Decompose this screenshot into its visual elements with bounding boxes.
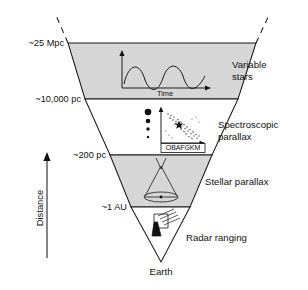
- distance-axis: Distance: [34, 152, 51, 258]
- hr-xaxis-label: OBAFGKM: [166, 144, 201, 151]
- right-edge-dashed-extension: [256, 13, 270, 43]
- scale-label-10000-pc: ~10,000 pc: [35, 94, 81, 104]
- distance-axis-arrowhead: [43, 152, 50, 161]
- scale-label-25-mpc: ~25 Mpc: [29, 38, 65, 48]
- method-label-stellar-parallax: Stellar parallax: [205, 176, 269, 187]
- earth-label: Earth: [150, 266, 173, 277]
- distance-ladder-figure: Time: [0, 0, 308, 290]
- scale-label-1-au: ~1 AU: [102, 202, 127, 212]
- method-label-variable-stars-line1: Variable: [232, 59, 267, 70]
- method-label-spectroscopic-parallax-line1: Spectroscopic: [218, 119, 278, 130]
- distance-ladder-diagram: Time: [0, 0, 308, 290]
- distance-axis-label: Distance: [34, 190, 45, 226]
- scale-label-200-pc: ~200 pc: [73, 150, 106, 160]
- hr-legend-dot-1: [145, 109, 152, 116]
- sun-marker: [160, 196, 163, 199]
- band-stellar-parallax: [110, 155, 212, 207]
- hr-legend-dot-4: [147, 136, 149, 138]
- hr-legend-dot-3: [146, 127, 149, 130]
- method-label-radar-ranging: Radar ranging: [186, 232, 247, 243]
- hr-legend-dot-2: [146, 119, 151, 124]
- light-curve-xaxis-label: Time: [157, 89, 173, 98]
- method-label-variable-stars-line2: stars: [232, 71, 253, 82]
- method-label-spectroscopic-parallax-line2: parallax: [218, 131, 252, 142]
